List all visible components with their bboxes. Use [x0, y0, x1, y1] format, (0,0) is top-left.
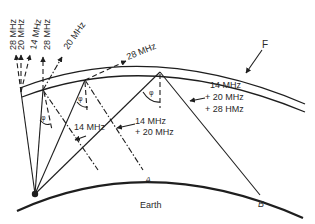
phi-3: φ	[149, 89, 154, 97]
pointer-14-20	[117, 124, 135, 128]
label-f-layer: F	[262, 39, 268, 50]
skywave-diagram: 28 MHz 20 MHz 14 MHz 28 MHz 20 MHz 28 MH…	[0, 0, 315, 224]
diagram-svg: 28 MHz 20 MHz 14 MHz 28 MHz 20 MHz 28 MH…	[0, 0, 315, 224]
label-reflect-14: 14 MHz	[74, 122, 106, 132]
pointer-14-20-28	[190, 98, 205, 101]
label-reflect-long-2: + 20 MHz	[205, 92, 244, 102]
label-earth: Earth	[140, 200, 162, 210]
phi-1: φ	[41, 114, 46, 122]
f-layer-lower	[22, 76, 305, 112]
label-mid-20: 20 MHz	[61, 20, 87, 52]
label-point-b: B	[258, 199, 264, 209]
label-reflect-mid-2: + 20 MHz	[135, 127, 174, 137]
ray-3-normal	[85, 82, 87, 110]
label-oblique-28: 28 MHz	[125, 41, 158, 62]
ray-escape-28a	[16, 55, 21, 92]
label-reflect-long-3: + 28 HMz	[205, 104, 244, 114]
label-reflect-long-1: 14 MHz	[210, 80, 242, 90]
label-point-a: A	[144, 175, 151, 185]
f-layer-upper	[20, 66, 305, 104]
ray-4-reflect	[160, 72, 260, 195]
label-vert-20: 20 MHz	[16, 18, 26, 50]
label-reflect-mid-1: 14 MHz	[135, 116, 167, 126]
phi-2: φ	[78, 95, 83, 103]
label-mid-28: 28 MHz	[42, 18, 52, 50]
ray-vertical-solid-1	[21, 92, 35, 194]
f-layer-pointer	[246, 50, 262, 73]
